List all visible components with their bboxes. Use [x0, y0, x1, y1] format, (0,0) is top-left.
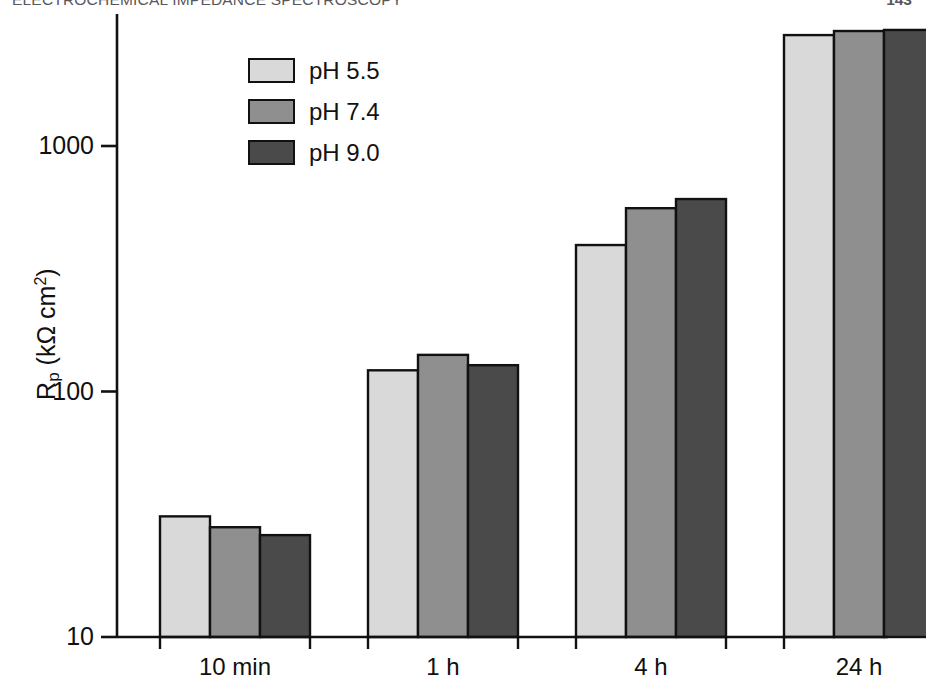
legend-item: pH 5.5	[248, 58, 380, 83]
bar-1-h-pH-5.5	[368, 370, 418, 637]
bar-10-min-pH-7.4	[210, 527, 260, 637]
legend-item: pH 9.0	[248, 140, 380, 165]
chart-plot-area	[0, 0, 926, 691]
bar-4-h-pH-9.0	[676, 199, 726, 637]
legend-label-ph-5-5: pH 5.5	[309, 59, 380, 83]
bar-10-min-pH-5.5	[160, 516, 210, 637]
figure-page: ELECTROCHEMICAL IMPEDANCE SPECTROSCOPY 1…	[0, 0, 926, 691]
y-tick-label: 10	[8, 622, 94, 651]
x-tick-label-1-h: 1 h	[343, 653, 543, 681]
y-axis-label-paren: )	[32, 268, 60, 276]
y-axis-label-exponent: 2	[32, 277, 49, 286]
bar-1-h-pH-7.4	[418, 355, 468, 637]
bar-4-h-pH-7.4	[626, 208, 676, 637]
bar-chart-figure: pH 5.5 pH 7.4 pH 9.0 Rp (kΩ cm2) 1010010…	[0, 0, 926, 691]
legend-swatch-ph-5-5	[248, 58, 295, 83]
y-axis-label: Rp (kΩ cm2)	[32, 224, 64, 444]
legend-item: pH 7.4	[248, 99, 380, 124]
x-tick-label-24-h: 24 h	[759, 653, 926, 681]
legend-swatch-ph-7-4	[248, 99, 295, 124]
y-axis-label-unit: (kΩ cm	[32, 286, 60, 373]
legend-label-ph-7-4: pH 7.4	[309, 100, 380, 124]
bar-24-h-pH-9.0	[884, 30, 926, 637]
y-tick-label: 100	[8, 377, 94, 406]
chart-legend: pH 5.5 pH 7.4 pH 9.0	[248, 58, 380, 165]
bar-24-h-pH-7.4	[834, 31, 884, 637]
legend-swatch-ph-9-0	[248, 140, 295, 165]
x-tick-label-10-min: 10 min	[135, 653, 335, 681]
bar-1-h-pH-9.0	[468, 365, 518, 637]
y-tick-label: 1000	[8, 131, 94, 160]
bar-24-h-pH-5.5	[784, 35, 834, 637]
legend-label-ph-9-0: pH 9.0	[309, 141, 380, 165]
bar-10-min-pH-9.0	[260, 535, 310, 637]
bar-4-h-pH-5.5	[576, 245, 626, 637]
x-tick-label-4-h: 4 h	[551, 653, 751, 681]
